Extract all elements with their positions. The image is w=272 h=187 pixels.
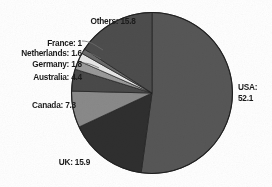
slice-label-canada: Canada: 7.3 — [8, 100, 76, 111]
slice-label-netherlands: Netherlands: 1.6 — [8, 48, 82, 59]
pie-slices — [71, 13, 232, 174]
slice-label-uk-text: UK: 15.9 — [59, 157, 90, 167]
slice-label-australia: Australia: 4.4 — [8, 72, 82, 83]
pie-chart: Others: 15.8 France: 1 Netherlands: 1.6 … — [0, 0, 272, 187]
slice-label-usa-line2: 52.1 — [238, 93, 257, 104]
slice-label-usa: USA: 52.1 — [238, 82, 257, 103]
pie-slice-usa — [141, 13, 232, 174]
slice-label-uk: UK: 15.9 — [59, 157, 90, 168]
slice-label-france: France: 1 — [8, 38, 82, 49]
slice-label-australia-text: Australia: 4.4 — [33, 72, 82, 82]
slice-label-usa-line1: USA: — [238, 82, 257, 93]
pie-chart-canvas — [0, 0, 272, 187]
slice-label-germany: Germany: 1.8 — [8, 59, 82, 70]
slice-label-germany-text: Germany: 1.8 — [32, 59, 82, 69]
slice-label-france-text: France: 1 — [47, 38, 82, 48]
slice-label-netherlands-text: Netherlands: 1.6 — [21, 48, 82, 58]
slice-label-others: Others: 15.8 — [91, 16, 136, 27]
slice-label-canada-text: Canada: 7.3 — [32, 100, 76, 110]
slice-label-others-text: Others: 15.8 — [91, 16, 136, 26]
